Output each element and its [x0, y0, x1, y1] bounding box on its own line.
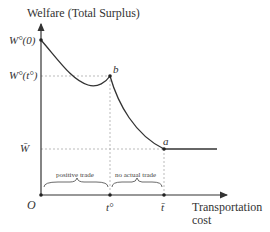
positive-trade-brace	[44, 178, 108, 187]
point-b-label: b	[113, 64, 119, 75]
wto-tick-label: W°(t°)	[9, 70, 37, 81]
origin-label: O	[27, 199, 36, 211]
x-axis-label: Transportation cost	[192, 201, 262, 227]
positive-trade-label: positive trade	[56, 172, 94, 179]
welfare-curve-no-trade	[110, 76, 164, 149]
w0-point	[39, 38, 43, 42]
point-a-label: a	[163, 136, 169, 147]
tbar-tick-label: t̄	[161, 202, 164, 213]
point-b	[108, 74, 112, 78]
welfare-diagram	[0, 0, 270, 232]
no-trade-label: no actual trade	[115, 172, 156, 179]
welfare-curve-positive-trade	[41, 40, 110, 86]
wbar-tick-label: W̄	[20, 143, 29, 154]
no-trade-brace	[112, 178, 162, 187]
y-axis-label: Welfare (Total Surplus)	[27, 7, 140, 19]
to-tick-label: t°	[106, 202, 113, 213]
point-a	[162, 147, 166, 151]
tbar-point	[162, 193, 166, 197]
x-axis-label-line2: cost	[192, 214, 262, 227]
w0-tick-label: W°(0)	[9, 35, 35, 46]
to-point	[108, 193, 112, 197]
origin-point	[39, 193, 43, 197]
